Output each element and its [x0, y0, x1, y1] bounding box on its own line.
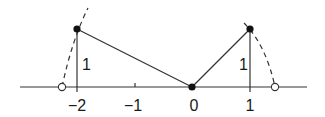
point-right-top	[246, 25, 253, 32]
right-dashed-arc	[244, 23, 275, 87]
height-label-left: 1	[82, 56, 91, 73]
tick-label-neg2: −2	[68, 97, 86, 114]
left-dashed-arc	[62, 8, 88, 87]
height-label-right: 1	[239, 56, 248, 73]
tick-label-0: 0	[190, 97, 199, 114]
hollow-point-right	[271, 83, 278, 90]
left-hypotenuse	[77, 29, 192, 87]
tick-label-1: 1	[246, 97, 255, 114]
point-left-top	[73, 25, 80, 32]
point-origin	[188, 83, 195, 90]
tick-label-neg1: −1	[124, 97, 142, 114]
diagram: 1 1 −2 −1 0 1	[0, 0, 325, 117]
hollow-point-left	[58, 83, 65, 90]
